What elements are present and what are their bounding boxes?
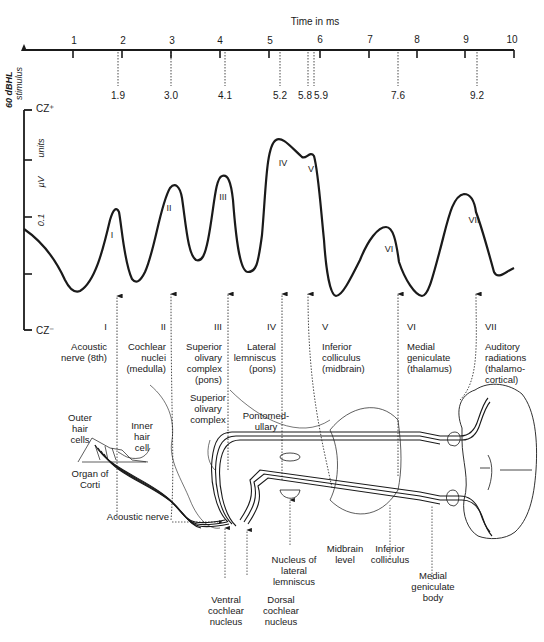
svg-text:lateral: lateral — [281, 565, 307, 576]
svg-text:VII: VII — [485, 321, 497, 332]
scale-units: µV — [36, 175, 46, 187]
generator-VII: VII Auditory radiations (thalamo- cortic… — [485, 321, 526, 385]
svg-text:cochlear: cochlear — [263, 605, 299, 616]
svg-text:(pons): (pons) — [249, 363, 276, 374]
svg-text:Medial: Medial — [419, 570, 447, 581]
svg-text:cochlear: cochlear — [208, 605, 244, 616]
stimulus-sublabel: stimulus — [14, 66, 24, 100]
svg-text:colliculus: colliculus — [322, 352, 361, 363]
latency-4.1: 4.1 — [218, 90, 232, 101]
svg-text:level: level — [335, 554, 355, 565]
scale-units-word: units — [36, 138, 46, 158]
svg-text:(thalamus): (thalamus) — [407, 363, 452, 374]
svg-text:(pons): (pons) — [195, 374, 222, 385]
label-dorsal-cochlear-nucleus: Dorsal cochlear nucleus — [263, 594, 299, 627]
generator-arrows — [117, 294, 476, 520]
svg-text:I: I — [104, 321, 107, 332]
svg-text:Auditory: Auditory — [485, 341, 520, 352]
label-outer-hair-cells: Outer hair cells — [68, 412, 92, 445]
svg-text:Inferior: Inferior — [375, 543, 405, 554]
wave-label-II: II — [166, 203, 171, 213]
label-midbrain-level: Midbrain level — [327, 543, 363, 565]
svg-text:nucleus: nucleus — [265, 616, 298, 627]
svg-text:hair: hair — [134, 431, 150, 442]
lateral-ventricle — [480, 455, 532, 490]
generator-V: V Inferior colliculus (midbrain) — [322, 321, 365, 374]
latency-marker-lines — [118, 52, 477, 86]
svg-text:nucleus: nucleus — [210, 616, 243, 627]
stimulus-arrow-icon — [21, 44, 27, 51]
time-axis-label: Time in ms — [291, 16, 340, 27]
svg-text:Organ of: Organ of — [72, 468, 109, 479]
generator-labels: I Acoustic nerve (8th) II Cochlear nucle… — [61, 321, 526, 385]
abr-waveform — [24, 139, 514, 296]
label-organ-of-corti: Organ of Corti — [72, 468, 109, 490]
svg-text:Dorsal: Dorsal — [267, 594, 294, 605]
time-ticks — [73, 50, 514, 58]
tick-label-7: 7 — [367, 34, 373, 45]
cz-minus-label: CZ⁻ — [36, 325, 54, 336]
amplitude-axis: CZ⁺ CZ⁻ 0.1 µV units — [24, 103, 54, 336]
cerebral-cortex-outline — [459, 384, 537, 538]
cz-plus-label: CZ⁺ — [36, 103, 54, 114]
generator-VI: VI Medial geniculate (thalamus) — [407, 321, 452, 374]
svg-text:Pontomed-: Pontomed- — [243, 410, 289, 421]
svg-text:Corti: Corti — [80, 479, 100, 490]
generator-II: II Cochlear nuclei (medulla) — [126, 321, 166, 374]
svg-text:Superior: Superior — [190, 392, 226, 403]
svg-text:(thalamo-: (thalamo- — [485, 363, 525, 374]
tick-label-2: 2 — [120, 35, 126, 46]
wave-label-VI: VI — [385, 244, 394, 254]
tick-label-5: 5 — [267, 35, 273, 46]
wave-label-V: V — [308, 164, 314, 174]
svg-text:(medulla): (medulla) — [126, 363, 166, 374]
svg-text:Acoustic: Acoustic — [71, 341, 107, 352]
thalamocortical-radiations — [440, 398, 492, 536]
svg-text:Superior: Superior — [186, 341, 222, 352]
svg-text:complex: complex — [190, 414, 226, 425]
svg-text:Nucleus of: Nucleus of — [272, 554, 317, 565]
generator-IV: IV Lateral lemniscus (pons) — [234, 321, 277, 374]
latency-5.8: 5.8 — [298, 90, 312, 101]
label-ventral-cochlear-nucleus: Ventral cochlear nucleus — [208, 594, 244, 627]
time-axis: Time in ms 1 2 3 4 5 6 7 8 9 10 — [21, 16, 518, 101]
svg-text:cell: cell — [135, 442, 149, 453]
stimulus-level: 60 dBHL — [4, 71, 14, 108]
svg-text:complex: complex — [187, 363, 223, 374]
auditory-pathway-illustration — [78, 384, 537, 580]
svg-text:III: III — [214, 321, 222, 332]
svg-text:hair: hair — [72, 423, 88, 434]
svg-text:V: V — [322, 321, 329, 332]
wave-label-VII: VII — [468, 215, 479, 225]
medial-geniculate-body — [448, 432, 461, 446]
svg-text:olivary: olivary — [194, 403, 222, 414]
latency-9.2: 9.2 — [470, 90, 484, 101]
latency-5.9: 5.9 — [314, 90, 328, 101]
svg-text:radiations: radiations — [485, 352, 526, 363]
tick-label-9: 9 — [463, 34, 469, 45]
svg-text:Ventral: Ventral — [211, 594, 241, 605]
label-superior-olivary-complex: Superior olivary complex — [190, 392, 226, 425]
diagram-canvas: Time in ms 1 2 3 4 5 6 7 8 9 10 — [0, 0, 544, 642]
lateral-lemniscus-nucleus — [280, 490, 300, 498]
svg-text:body: body — [423, 592, 444, 603]
svg-text:nerve (8th): nerve (8th) — [61, 352, 107, 363]
svg-text:Cochlear: Cochlear — [128, 341, 166, 352]
label-inner-hair-cell: Inner hair cell — [131, 420, 153, 453]
label-inferior-colliculus: Inferior colliculus — [371, 543, 410, 565]
svg-text:geniculate: geniculate — [411, 581, 454, 592]
svg-text:Inner: Inner — [131, 420, 153, 431]
tick-label-1: 1 — [71, 35, 77, 46]
svg-text:Inferior: Inferior — [322, 341, 352, 352]
svg-text:VI: VI — [407, 321, 416, 332]
latency-7.6: 7.6 — [391, 90, 405, 101]
tick-label-3: 3 — [169, 35, 175, 46]
tick-label-10: 10 — [506, 34, 518, 45]
label-acoustic-nerve: Acoustic nerve — [107, 511, 169, 522]
svg-text:lemniscus: lemniscus — [273, 576, 315, 587]
wave-label-I: I — [111, 230, 114, 240]
latency-5.2: 5.2 — [273, 90, 287, 101]
lateral-lemniscus-tracts — [212, 432, 440, 526]
label-nucleus-lateral-lemniscus: Nucleus of lateral lemniscus — [272, 554, 317, 587]
svg-text:lemniscus: lemniscus — [234, 352, 276, 363]
